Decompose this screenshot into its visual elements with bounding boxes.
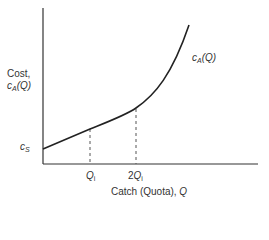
x-tick-qi: Qi: [86, 170, 95, 185]
y-axis-label-line2: cA(Q): [7, 80, 31, 95]
y-tick-cs: cS: [20, 141, 30, 156]
curve-label: cA(Q): [192, 52, 216, 67]
x-axis-label: Catch (Quota), Q: [111, 186, 187, 198]
y-axis-label-line1: Cost,: [7, 68, 31, 80]
x-tick-2qi: 2Qi: [128, 170, 143, 185]
y-axis-label: Cost, cA(Q): [7, 68, 31, 95]
cost-curve: [43, 25, 189, 149]
